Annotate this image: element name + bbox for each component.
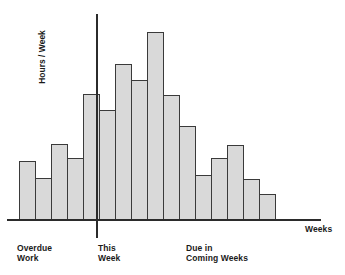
bar bbox=[115, 64, 132, 220]
bar bbox=[243, 179, 260, 220]
region-label-due-in-coming-weeks: Due in Coming Weeks bbox=[186, 243, 248, 263]
y-axis-label: Hours / Week bbox=[37, 7, 47, 107]
bar bbox=[67, 158, 84, 220]
plot-area: Hours / Week Weeks Overdue Work This Wee… bbox=[0, 0, 345, 275]
bar bbox=[35, 178, 52, 220]
bar bbox=[99, 110, 116, 220]
bar bbox=[259, 194, 276, 220]
x-axis-line bbox=[7, 219, 321, 221]
bar bbox=[51, 144, 68, 220]
bar bbox=[195, 175, 212, 220]
region-label-overdue-work: Overdue Work bbox=[17, 243, 52, 263]
chart-figure: Hours / Week Weeks Overdue Work This Wee… bbox=[0, 0, 345, 275]
x-axis-label: Weeks bbox=[305, 224, 332, 234]
bar bbox=[19, 161, 36, 220]
bar bbox=[131, 80, 148, 220]
region-label-this-week: This Week bbox=[98, 243, 120, 263]
bar bbox=[179, 126, 196, 220]
bar bbox=[227, 145, 244, 220]
bar bbox=[147, 32, 164, 220]
bar bbox=[211, 158, 228, 220]
bar bbox=[163, 95, 180, 220]
this-week-divider-line bbox=[96, 14, 98, 238]
